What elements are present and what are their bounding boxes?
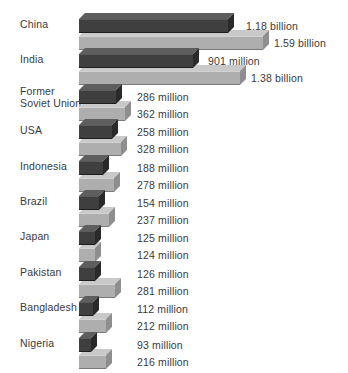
population-bar-chart: China1.18 billion1.59 billionIndia901 mi… xyxy=(0,0,348,373)
chart-row: Brazil154 million237 million xyxy=(0,190,348,224)
bar-front-face xyxy=(79,267,95,281)
bar-current xyxy=(79,225,95,239)
country-label: Bangladesh xyxy=(20,301,77,314)
bar-front-face xyxy=(79,161,103,175)
bar-front-face xyxy=(79,196,99,210)
bar-front-face xyxy=(79,231,95,245)
value-label: 93 million xyxy=(137,339,183,352)
bar-current xyxy=(79,155,103,169)
country-label: Pakistan xyxy=(20,266,61,279)
bar-current xyxy=(79,84,116,98)
bar-front-face xyxy=(79,302,93,316)
bar-current xyxy=(79,296,93,310)
bar-current xyxy=(79,13,228,27)
value-label: 125 million xyxy=(137,232,189,245)
bar-current xyxy=(79,261,95,275)
bar-front-face xyxy=(79,19,228,33)
value-label: 126 million xyxy=(137,268,189,281)
country-label: India xyxy=(20,53,44,66)
value-label: 258 million xyxy=(137,126,189,139)
bar-side-face xyxy=(240,65,246,85)
value-label: 154 million xyxy=(137,197,189,210)
value-label: 286 million xyxy=(137,91,189,104)
bar-side-face xyxy=(106,313,112,333)
chart-row: Indonesia188 million278 million xyxy=(0,155,348,189)
chart-row: USA258 million328 million xyxy=(0,119,348,153)
chart-row: India901 million1.38 billion xyxy=(0,48,348,82)
bar-front-face xyxy=(79,355,106,369)
value-label: 216 million xyxy=(137,356,189,369)
chart-row: Bangladesh112 million212 million xyxy=(0,296,348,330)
country-label: Nigeria xyxy=(20,337,54,350)
country-label: Brazil xyxy=(20,195,47,208)
bar-front-face xyxy=(79,54,193,68)
bar-current xyxy=(79,48,193,62)
country-label: Japan xyxy=(20,230,49,243)
country-label: USA xyxy=(20,124,42,137)
country-label: Indonesia xyxy=(20,160,67,173)
bar-front-face xyxy=(79,90,116,104)
bar-front-face xyxy=(79,338,91,352)
bar-current xyxy=(79,332,91,346)
country-label: Former Soviet Union xyxy=(20,85,81,110)
value-label: 112 million xyxy=(137,303,188,316)
chart-row: China1.18 billion1.59 billion xyxy=(0,13,348,47)
value-label: 188 million xyxy=(137,162,189,175)
bar-front-face xyxy=(79,125,112,139)
chart-row: Former Soviet Union286 million362 millio… xyxy=(0,84,348,118)
bar-side-face xyxy=(121,136,127,156)
chart-row: Japan125 million124 million xyxy=(0,225,348,259)
chart-row: Nigeria93 million216 million xyxy=(0,332,348,366)
country-label: China xyxy=(20,18,48,31)
bar-current xyxy=(79,119,112,133)
bar-current xyxy=(79,190,99,204)
bar-side-face xyxy=(95,242,101,262)
chart-row: Pakistan126 million281 million xyxy=(0,261,348,295)
